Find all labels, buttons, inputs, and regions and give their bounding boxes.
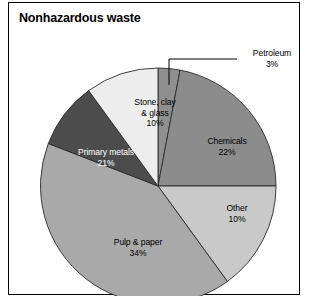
- pie-label-other-name: Other: [212, 203, 262, 214]
- pie-label-stone-clay-glass-value: 10%: [122, 118, 188, 129]
- pie-label-pulp-paper-value: 34%: [98, 248, 178, 259]
- pie-label-other-value: 10%: [212, 214, 262, 225]
- pie-label-chemicals-name: Chemicals: [195, 136, 259, 147]
- pie-label-pulp-paper-name: Pulp & paper: [98, 237, 178, 248]
- pie-label-petroleum: Petroleum 3%: [241, 48, 303, 69]
- pie-label-other: Other 10%: [212, 203, 262, 224]
- pie-chart: Petroleum 3% Chemicals 22% Other 10% Pul…: [9, 3, 301, 296]
- pie-label-pulp-paper: Pulp & paper 34%: [98, 237, 178, 258]
- pie-label-primary-metals: Primary metals 21%: [64, 147, 148, 168]
- pie-label-stone-clay-glass-line2: & glass: [122, 108, 188, 119]
- pie-label-stone-clay-glass-line1: Stone, clay: [122, 97, 188, 108]
- pie-label-primary-metals-value: 21%: [64, 158, 148, 169]
- pie-label-petroleum-name: Petroleum: [241, 48, 303, 59]
- pie-label-stone-clay-glass: Stone, clay & glass 10%: [122, 97, 188, 129]
- pie-label-chemicals-value: 22%: [195, 147, 259, 158]
- pie-label-chemicals: Chemicals 22%: [195, 136, 259, 157]
- pie-label-primary-metals-name: Primary metals: [64, 147, 148, 158]
- chart-panel: Nonhazardous waste Petroleum 3% Chemic: [8, 2, 300, 295]
- pie-label-petroleum-value: 3%: [241, 59, 303, 70]
